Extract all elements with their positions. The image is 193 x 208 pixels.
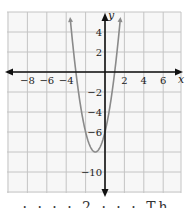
graph: −8−6−424642−2−4−6−10 x y	[0, 0, 193, 208]
y-tick-label: 4	[96, 27, 102, 38]
y-tick-label: −10	[81, 167, 102, 178]
x-tick-label: −4	[59, 75, 74, 86]
x-tick-label: 4	[141, 75, 147, 86]
y-tick-label: −2	[87, 87, 102, 98]
plot-background	[7, 12, 181, 193]
x-tick-label: 6	[160, 75, 166, 86]
caption-text: · · · · 2 · · · Th	[0, 200, 193, 208]
y-tick-label: 2	[96, 47, 102, 58]
x-axis-label: x	[178, 73, 185, 86]
x-tick-label: 2	[121, 75, 127, 86]
x-tick-label: −8	[20, 75, 35, 86]
y-axis-label: y	[107, 9, 115, 22]
y-tick-label: −6	[87, 127, 102, 138]
x-tick-label: −6	[39, 75, 54, 86]
y-tick-label: −4	[87, 107, 102, 118]
cut-off-caption: · · · · 2 · · · Th	[0, 199, 193, 208]
